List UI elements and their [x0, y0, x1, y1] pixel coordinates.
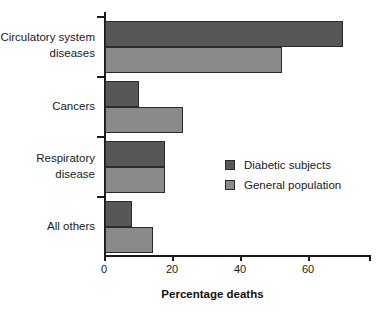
- y-axis-tick: [97, 76, 105, 78]
- bar-circulatory-diabetic: [105, 21, 343, 47]
- legend-swatch-icon: [225, 160, 235, 170]
- x-axis-tick-0: [104, 255, 106, 261]
- y-axis-tick: [97, 196, 105, 198]
- x-axis-title-wrapper: Percentage deaths: [0, 288, 385, 300]
- y-axis-tick: [97, 16, 105, 18]
- category-label-cancers: Cancers: [0, 98, 95, 114]
- chart-legend: Diabetic subjects General population: [225, 155, 341, 195]
- legend-item-general-population: General population: [225, 175, 341, 195]
- x-axis-line: [104, 255, 371, 257]
- bar-chart: Circulatory system diseases Cancers Resp…: [0, 0, 385, 312]
- x-axis-tick-40: [240, 255, 242, 261]
- x-axis-ticklabel-20: 20: [166, 263, 178, 276]
- y-axis-tick: [97, 136, 105, 138]
- bar-respiratory-diabetic: [105, 141, 165, 167]
- bar-cancers-diabetic: [105, 81, 139, 107]
- category-label-circulatory-system-diseases: Circulatory system diseases: [0, 29, 95, 61]
- x-axis-ticklabel-0: 0: [101, 263, 107, 276]
- x-axis-ticklabel-60: 60: [302, 263, 314, 276]
- x-axis-tick-end: [369, 255, 371, 261]
- x-axis-title: Percentage deaths: [161, 288, 263, 300]
- bar-circulatory-general: [105, 47, 282, 73]
- legend-swatch-icon: [225, 180, 235, 190]
- legend-label: General population: [244, 179, 341, 192]
- bar-cancers-general: [105, 107, 183, 133]
- category-label-respiratory-disease: Respiratory disease: [0, 150, 95, 182]
- x-axis-tick-20: [172, 255, 174, 261]
- plot-area: 0 20 40 60: [104, 12, 371, 255]
- bar-all-others-general: [105, 227, 153, 253]
- x-axis-tick-60: [308, 255, 310, 261]
- legend-label: Diabetic subjects: [244, 159, 331, 172]
- x-axis-ticklabel-40: 40: [234, 263, 246, 276]
- legend-item-diabetic-subjects: Diabetic subjects: [225, 155, 341, 175]
- bar-respiratory-general: [105, 167, 165, 193]
- category-label-all-others: All others: [0, 218, 95, 234]
- bar-all-others-diabetic: [105, 201, 132, 227]
